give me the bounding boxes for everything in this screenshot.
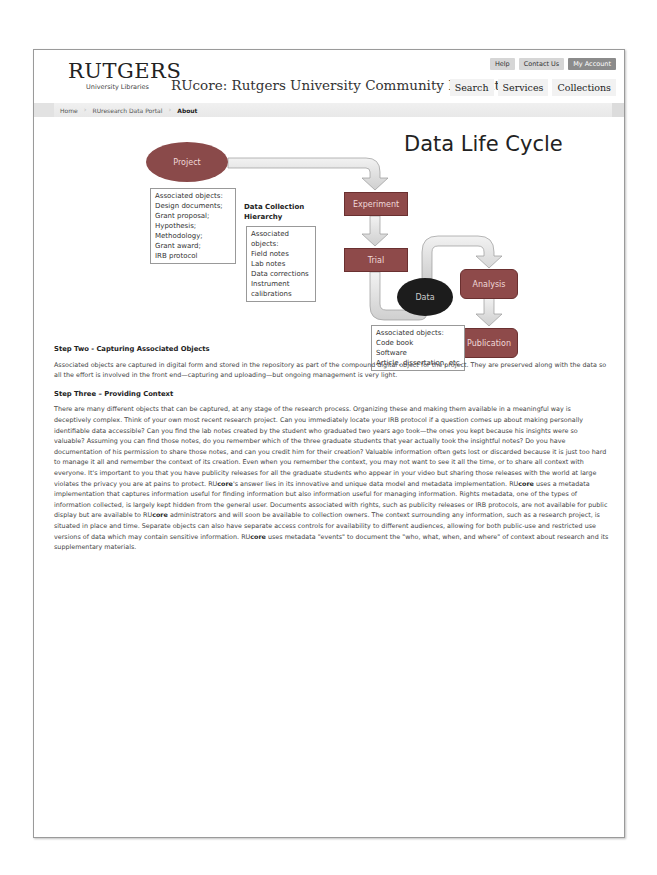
hierarchy-object: objects:: [251, 239, 311, 249]
step-two-heading: Step Two - Capturing Associated Objects: [54, 344, 609, 355]
node-data: Data: [397, 278, 453, 316]
nav-collections[interactable]: Collections: [552, 79, 616, 96]
node-experiment-label: Experiment: [353, 200, 399, 209]
step-three-heading: Step Three – Providing Context: [54, 389, 609, 400]
hierarchy-title: Data Collection Hierarchy: [244, 202, 304, 222]
diagram-title: Data Life Cycle: [404, 132, 563, 156]
hierarchy-object: Instrument: [251, 279, 311, 289]
breadcrumb-about: About: [171, 107, 203, 114]
hierarchy-object: Associated: [251, 229, 311, 239]
rucore-emphasis: core: [518, 480, 534, 488]
project-object: Grant proposal;: [155, 211, 231, 221]
project-object: IRB protocol: [155, 251, 231, 261]
main-content: Step Two - Capturing Associated Objects …: [54, 344, 609, 561]
rucore-emphasis: core: [152, 511, 168, 519]
page-frame: RUTGERS University Libraries RUcore: Rut…: [33, 49, 625, 838]
hierarchy-objects-box: Associated objects: Field notes Lab note…: [246, 226, 316, 302]
rucore-emphasis: core: [217, 480, 233, 488]
project-objects-box: Associated objects: Design documents; Gr…: [150, 188, 236, 264]
node-experiment: Experiment: [344, 192, 408, 216]
step-three-segment: There are many different objects that ca…: [54, 405, 606, 487]
utility-links: Help Contact Us My Account: [490, 58, 616, 70]
node-project: Project: [146, 142, 228, 182]
node-analysis: Analysis: [460, 269, 518, 299]
logo-wordmark: RUTGERS: [68, 60, 181, 82]
rutgers-logo[interactable]: RUTGERS University Libraries: [68, 60, 181, 91]
hierarchy-object: Data corrections: [251, 269, 311, 279]
rucore-emphasis: core: [250, 533, 266, 541]
project-object: Grant award;: [155, 241, 231, 251]
contact-us-button[interactable]: Contact Us: [519, 58, 565, 70]
breadcrumb-end: [612, 103, 624, 117]
breadcrumb-data-portal[interactable]: RUresearch Data Portal: [87, 107, 169, 114]
hierarchy-object: calibrations: [251, 289, 311, 299]
hierarchy-object: Lab notes: [251, 259, 311, 269]
node-analysis-label: Analysis: [473, 280, 506, 289]
node-trial: Trial: [344, 248, 408, 272]
breadcrumb-lead: [34, 103, 54, 117]
nav-search[interactable]: Search: [450, 79, 494, 96]
step-two-text: Associated objects are captured in digit…: [54, 360, 609, 381]
hierarchy-object: Field notes: [251, 249, 311, 259]
node-trial-label: Trial: [368, 256, 384, 265]
project-object: Methodology;: [155, 231, 231, 241]
project-object: Hypothesis;: [155, 221, 231, 231]
step-three-text: There are many different objects that ca…: [54, 404, 609, 552]
node-data-label: Data: [415, 293, 434, 302]
node-project-label: Project: [173, 158, 200, 167]
my-account-button[interactable]: My Account: [568, 58, 616, 70]
hierarchy-title-line: Hierarchy: [244, 212, 304, 222]
logo-subtitle: University Libraries: [86, 83, 181, 91]
data-life-cycle-diagram: Data Life Cycle Project Associated objec…: [134, 122, 574, 382]
project-object: Associated objects:: [155, 191, 231, 201]
help-button[interactable]: Help: [490, 58, 515, 70]
hierarchy-title-line: Data Collection: [244, 202, 304, 212]
breadcrumb: Home › RUresearch Data Portal › About: [34, 103, 624, 117]
breadcrumb-home[interactable]: Home: [54, 107, 84, 114]
data-object: Associated objects:: [376, 328, 460, 338]
project-object: Design documents;: [155, 201, 231, 211]
nav-services[interactable]: Services: [498, 79, 549, 96]
main-nav: Search Services Collections: [450, 79, 616, 96]
step-three-segment: 's answer lies in its innovative and uni…: [233, 480, 518, 488]
